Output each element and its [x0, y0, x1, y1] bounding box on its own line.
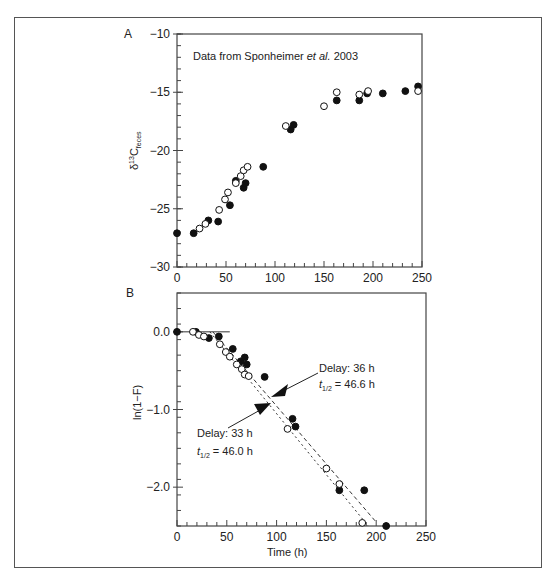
annotation-delay-33h: Delay: 33 h: [197, 427, 253, 439]
filled-data-point: [402, 88, 409, 95]
filled-data-point: [260, 163, 267, 170]
open-data-point: [284, 426, 291, 433]
panel-a-chart: A Data from Sponheimer et al. 2003 05010…: [124, 27, 432, 285]
annotation-arrow-line-33h: [228, 409, 262, 428]
open-data-point: [245, 373, 252, 380]
filled-data-point: [174, 230, 181, 237]
panel-a-axes: 050100150200250−10−15−20−25−30: [150, 27, 433, 285]
x-tick-label: 100: [265, 271, 285, 285]
panel-a-y-axis-label: δ13Cfeces: [128, 131, 142, 170]
panel-a-source-note: Data from Sponheimer et al. 2003: [193, 50, 358, 62]
y-tick-label: −15: [150, 85, 171, 99]
filled-data-point: [261, 373, 268, 380]
filled-data-point: [242, 180, 249, 187]
x-tick-label: 200: [363, 271, 383, 285]
open-data-point: [415, 88, 422, 95]
open-data-point: [323, 465, 330, 472]
y-tick-label: −2.0: [146, 480, 170, 494]
filled-data-point: [241, 354, 248, 361]
annotation-halflife-46-0h: t1/2 = 46.0 h: [197, 445, 253, 459]
open-data-point: [336, 481, 343, 488]
open-data-point: [222, 196, 229, 203]
open-data-point: [216, 341, 223, 348]
filled-data-point: [289, 415, 296, 422]
panel-a-data-points: [174, 83, 422, 237]
x-tick-label: 100: [267, 530, 287, 544]
panel-a-plot-area: [177, 34, 422, 267]
open-data-point: [356, 91, 363, 98]
y-tick-label: 0.0: [153, 325, 170, 339]
open-data-point: [359, 519, 366, 526]
open-data-point: [225, 189, 232, 196]
open-data-point: [226, 353, 233, 360]
panel-b-chart: B 0501001502002500.0−1.0−2.0 ln(1−F) Tim…: [126, 286, 436, 558]
y-tick-label: −30: [150, 260, 171, 274]
x-tick-label: 250: [416, 530, 436, 544]
filled-data-point: [292, 423, 299, 430]
annotation-delay-36h: Delay: 36 h: [319, 362, 375, 374]
filled-data-point: [215, 218, 222, 225]
x-tick-label: 150: [316, 530, 336, 544]
panel-b-label: B: [126, 286, 134, 300]
annotation-arrowhead-33h: [254, 403, 271, 415]
x-tick-label: 0: [174, 530, 181, 544]
open-data-point: [321, 103, 328, 110]
y-tick-label: −20: [150, 144, 171, 158]
x-tick-label: 50: [220, 530, 234, 544]
panel-b-x-axis-label: Time (h): [267, 546, 308, 558]
x-tick-label: 150: [314, 271, 334, 285]
panel-a-label: A: [124, 27, 132, 41]
filled-data-point: [215, 333, 222, 340]
open-data-point: [200, 333, 207, 340]
open-data-point: [202, 220, 209, 227]
open-data-point: [333, 89, 340, 96]
filled-data-point: [361, 487, 368, 494]
x-tick-label: 0: [174, 271, 181, 285]
y-tick-label: −25: [150, 202, 171, 216]
x-tick-label: 250: [412, 271, 432, 285]
filled-data-point: [379, 90, 386, 97]
filled-data-point: [227, 202, 234, 209]
open-data-point: [244, 163, 251, 170]
filled-data-point: [229, 346, 236, 353]
filled-data-point: [174, 328, 181, 335]
filled-data-point: [383, 523, 390, 530]
panel-b-plot-area: [177, 293, 426, 526]
filled-data-point: [290, 121, 297, 128]
open-data-point: [365, 88, 372, 95]
open-data-point: [232, 180, 239, 187]
figure-canvas: A Data from Sponheimer et al. 2003 05010…: [0, 0, 553, 579]
x-tick-label: 200: [366, 530, 386, 544]
filled-data-point: [190, 230, 197, 237]
annotation-arrowhead-36h: [271, 384, 288, 397]
annotation-halflife-46-6h: t1/2 = 46.6 h: [319, 378, 375, 392]
x-tick-label: 50: [219, 271, 233, 285]
open-data-point: [282, 123, 289, 130]
filled-data-point: [333, 97, 340, 104]
panel-b-y-axis-label: ln(1−F): [131, 385, 143, 420]
y-tick-label: −10: [150, 27, 171, 41]
open-data-point: [196, 225, 203, 232]
open-data-point: [216, 207, 223, 214]
y-tick-label: −1.0: [146, 403, 170, 417]
